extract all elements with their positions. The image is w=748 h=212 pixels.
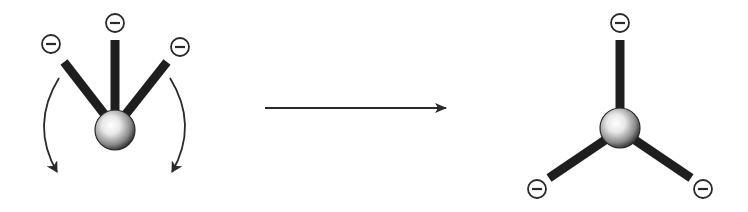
negative-charge-icon <box>528 180 546 198</box>
rotation-arrow-left-icon <box>44 78 59 172</box>
negative-charge-icon <box>611 14 629 32</box>
negative-charge-icon <box>694 180 712 198</box>
negative-charge-icon <box>42 35 60 53</box>
rotation-arrow-right-icon <box>170 78 185 172</box>
vsepr-diagram <box>0 0 748 212</box>
negative-charge-icon <box>171 38 189 56</box>
molecule-after <box>528 14 712 198</box>
molecule-before <box>42 14 189 172</box>
central-atom-sphere <box>600 108 640 148</box>
central-atom-sphere <box>95 110 135 150</box>
negative-charge-icon <box>106 14 124 32</box>
